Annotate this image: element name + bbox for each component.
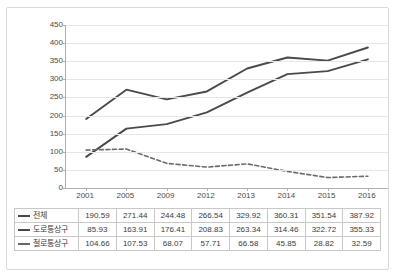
series-line-3 — [86, 149, 368, 178]
legend-line-icon — [18, 229, 30, 231]
legend-line-icon — [18, 215, 30, 217]
x-axis-tick-label: 2014 — [266, 191, 306, 200]
table-cell-value: 360.31 — [267, 209, 305, 223]
series-line-2 — [86, 59, 368, 157]
y-axis-tick-label: 450 — [37, 21, 63, 29]
table-cell-value: 355.33 — [343, 223, 381, 237]
table-cell-value: 263.34 — [230, 223, 268, 237]
legend-entry[interactable]: 도로통상구 — [15, 223, 79, 237]
table-cell-value: 163.91 — [116, 223, 154, 237]
gridline — [66, 79, 388, 80]
y-axis-tick-mark — [63, 25, 66, 26]
gridline — [66, 116, 388, 117]
table-cell-value: 107.53 — [116, 237, 154, 251]
y-axis-tick-mark — [63, 79, 66, 80]
x-axis-tick-label: 2001 — [65, 191, 105, 200]
gridline — [66, 152, 388, 153]
table-cell-value: 85.93 — [79, 223, 117, 237]
table-cell-value: 266.54 — [192, 209, 230, 223]
y-axis-tick-mark — [63, 43, 66, 44]
table-cell-value: 208.83 — [192, 223, 230, 237]
y-axis-tick-label: 350 — [37, 57, 63, 65]
x-axis-labels: 20012005200920122013201420152016 — [65, 191, 387, 205]
y-axis-tick-label: 150 — [37, 130, 63, 138]
table-row: 철로통상구104.66107.5368.0757.7166.5845.8528.… — [15, 237, 381, 251]
y-axis-tick-label: 0 — [37, 184, 63, 192]
table-cell-value: 57.71 — [192, 237, 230, 251]
table-cell-value: 271.44 — [116, 209, 154, 223]
table-cell-value: 387.92 — [343, 209, 381, 223]
table-row: 도로통상구85.93163.91176.41208.83263.34314.46… — [15, 223, 381, 237]
y-axis-tick-label: 200 — [37, 112, 63, 120]
table-cell-value: 351.54 — [305, 209, 343, 223]
table-cell-value: 329.92 — [230, 209, 268, 223]
x-axis-tick-label: 2005 — [105, 191, 145, 200]
x-axis-tick-label: 2013 — [226, 191, 266, 200]
table-row: 전체190.59271.44244.48266.54329.92360.3135… — [15, 209, 381, 223]
y-axis-tick-mark — [63, 188, 66, 189]
table-cell-value: 28.82 — [305, 237, 343, 251]
plot-area — [65, 25, 388, 189]
y-axis-tick-label: 250 — [37, 93, 63, 101]
y-axis-tick-label: 50 — [37, 166, 63, 174]
x-axis-tick-label: 2015 — [307, 191, 347, 200]
legend-entry[interactable]: 전체 — [15, 209, 79, 223]
gridline — [66, 97, 388, 98]
y-axis-tick-label: 100 — [37, 148, 63, 156]
series-value-table: 전체190.59271.44244.48266.54329.92360.3135… — [14, 208, 381, 251]
table-cell-value: 104.66 — [79, 237, 117, 251]
y-axis-tick-mark — [63, 134, 66, 135]
gridline — [66, 134, 388, 135]
y-axis-labels: 050100150200250300350400450 — [37, 25, 63, 188]
series-line-1 — [86, 47, 368, 118]
chart-frame: 050100150200250300350400450 200120052009… — [6, 7, 389, 270]
legend-line-icon — [18, 243, 30, 245]
legend-entry[interactable]: 철로통상구 — [15, 237, 79, 251]
gridline — [66, 25, 388, 26]
legend-label: 철로통상구 — [33, 239, 68, 248]
gridline — [66, 43, 388, 44]
table-cell-value: 314.46 — [267, 223, 305, 237]
y-axis-tick-mark — [63, 152, 66, 153]
y-axis-tick-mark — [63, 170, 66, 171]
table-cell-value: 176.41 — [154, 223, 192, 237]
table-cell-value: 322.72 — [305, 223, 343, 237]
table-cell-value: 66.58 — [230, 237, 268, 251]
y-axis-tick-mark — [63, 97, 66, 98]
line-chart: 050100150200250300350400450 200120052009… — [7, 8, 388, 204]
table-cell-value: 244.48 — [154, 209, 192, 223]
y-axis-tick-mark — [63, 116, 66, 117]
table-cell-value: 68.07 — [154, 237, 192, 251]
gridline — [66, 61, 388, 62]
table-cell-value: 190.59 — [79, 209, 117, 223]
y-axis-tick-label: 400 — [37, 39, 63, 47]
legend-label: 도로통상구 — [33, 225, 68, 234]
table-cell-value: 45.85 — [267, 237, 305, 251]
series-lines — [66, 25, 388, 188]
x-axis-tick-label: 2009 — [146, 191, 186, 200]
legend-label: 전체 — [33, 211, 47, 220]
y-axis-tick-mark — [63, 61, 66, 62]
table-cell-value: 32.59 — [343, 237, 381, 251]
data-table: 전체190.59271.44244.48266.54329.92360.3135… — [14, 208, 381, 253]
x-axis-tick-label: 2012 — [186, 191, 226, 200]
y-axis-tick-label: 300 — [37, 75, 63, 83]
x-axis-tick-label: 2016 — [347, 191, 387, 200]
gridline — [66, 170, 388, 171]
